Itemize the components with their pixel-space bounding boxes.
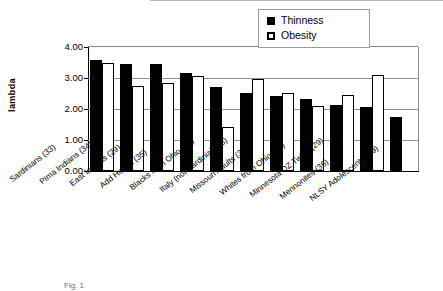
bar-thinness: [120, 64, 132, 171]
bar-obesity: [312, 106, 324, 171]
open-square-icon: [267, 32, 275, 40]
bar-group: [388, 47, 418, 171]
bar-obesity: [372, 75, 384, 171]
legend-label: Thinness: [281, 15, 324, 26]
bar-thinness: [330, 105, 342, 171]
y-tick-label: 0.00: [65, 166, 84, 176]
bar-group: [148, 47, 178, 171]
bar-group: [88, 47, 118, 171]
bar-groups: [88, 47, 418, 171]
bar-obesity: [252, 79, 264, 171]
bar-group: [178, 47, 208, 171]
y-tick-label: 3.00: [65, 73, 84, 83]
y-axis-title: lambda: [7, 65, 17, 125]
bar-thinness: [300, 99, 312, 171]
frame-right-edge: [418, 47, 419, 171]
bar-obesity: [162, 83, 174, 171]
bar-thinness: [90, 60, 102, 171]
bar-group: [238, 47, 268, 171]
bar-obesity: [132, 86, 144, 171]
bar-thinness: [360, 107, 372, 171]
y-tick-label: 1.00: [65, 135, 84, 145]
y-tick-label: 4.00: [65, 42, 84, 52]
bar-thinness: [240, 93, 252, 171]
filled-square-icon: [267, 17, 275, 25]
y-tick-label: 2.00: [65, 104, 84, 114]
bar-group: [268, 47, 298, 171]
bar-obesity: [102, 63, 114, 172]
y-tick-mark: [84, 171, 88, 172]
bar-group: [118, 47, 148, 171]
bar-obesity: [342, 95, 354, 171]
bar-thinness: [150, 64, 162, 171]
bar-obesity: [192, 76, 204, 171]
legend-label: Obesity: [281, 30, 317, 41]
chart-legend: Thinness Obesity: [258, 9, 370, 48]
bar-thinness: [180, 73, 192, 171]
page-rule: [150, 0, 443, 1]
bar-obesity: [222, 127, 234, 171]
bar-group: [208, 47, 238, 171]
figure-caption: Fig. 1: [64, 281, 84, 290]
bar-thinness: [270, 96, 282, 171]
bar-group: [298, 47, 328, 171]
bar-thinness: [210, 87, 222, 171]
legend-item-obesity: Obesity: [267, 28, 364, 43]
bar-group: [328, 47, 358, 171]
x-axis-label: Pima Indians (34): [38, 139, 94, 186]
bar-group: [358, 47, 388, 171]
legend-item-thinness: Thinness: [267, 13, 364, 28]
x-axis-label: Sardinians (33): [8, 143, 57, 184]
bar-thinness: [390, 117, 402, 171]
plot-area: 4.003.002.001.000.00: [88, 47, 418, 171]
bar-obesity: [282, 93, 294, 171]
chart-figure: lambda 4.003.002.001.000.00 Sardinians (…: [0, 0, 443, 291]
